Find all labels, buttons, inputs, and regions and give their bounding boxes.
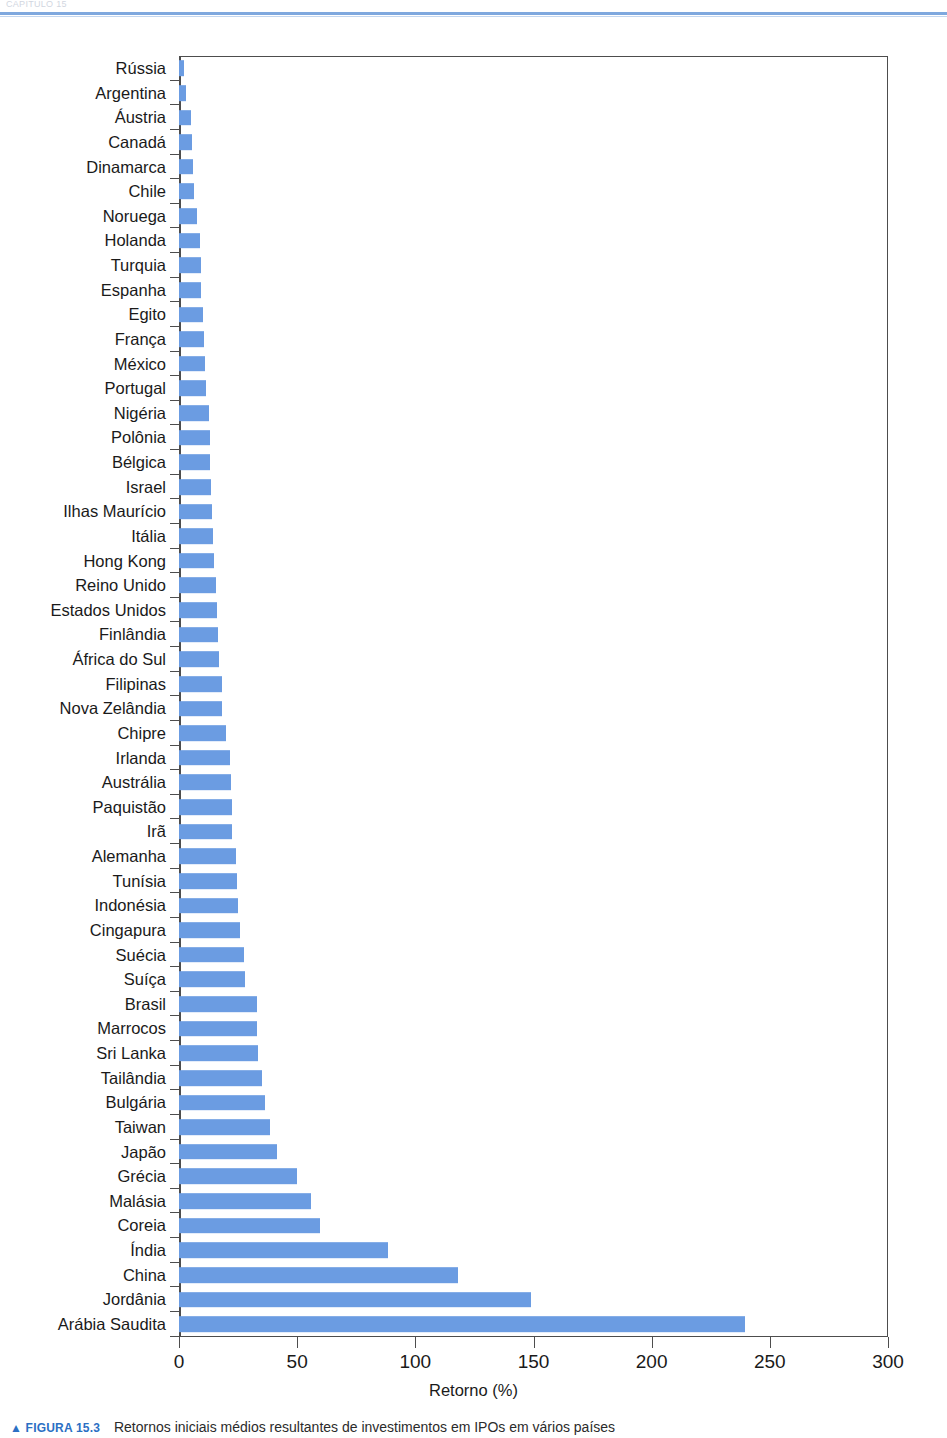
bar-row: África do Sul (0, 647, 947, 672)
bar (179, 972, 245, 988)
bar-track (179, 228, 947, 253)
x-axis-tick (534, 1337, 535, 1348)
bar (179, 405, 209, 421)
category-label: Holanda (0, 232, 170, 249)
bar-row: Coreia (0, 1213, 947, 1238)
category-label: Nigéria (0, 405, 170, 422)
x-axis-tick-label: 150 (518, 1351, 550, 1373)
category-label: Reino Unido (0, 577, 170, 594)
bar-row: Irã (0, 819, 947, 844)
bar (179, 504, 212, 520)
bar-track (179, 425, 947, 450)
x-axis-tick-label: 100 (399, 1351, 431, 1373)
category-label: Malásia (0, 1193, 170, 1210)
category-label: Turquia (0, 257, 170, 274)
bar-row: Dinamarca (0, 155, 947, 180)
bar-row: Estados Unidos (0, 598, 947, 623)
bar-row: Tailândia (0, 1066, 947, 1091)
bar (179, 258, 201, 274)
category-label: Áustria (0, 109, 170, 126)
top-rule-thin (0, 16, 947, 17)
bar-row: Argentina (0, 81, 947, 106)
bar-row: Rússia (0, 56, 947, 81)
x-axis-tick-label: 50 (287, 1351, 308, 1373)
bar (179, 750, 230, 766)
bar (179, 1267, 458, 1283)
x-axis-tick (652, 1337, 653, 1348)
bar-track (179, 56, 947, 81)
bar (179, 775, 231, 791)
bar-track (179, 1115, 947, 1140)
bar-track (179, 1066, 947, 1091)
x-axis-tick-label: 200 (636, 1351, 668, 1373)
category-label: Arábia Saudita (0, 1316, 170, 1333)
category-label: Sri Lanka (0, 1045, 170, 1062)
bar-row: México (0, 352, 947, 377)
category-label: Nova Zelândia (0, 700, 170, 717)
bar-track (179, 179, 947, 204)
bar-track (179, 795, 947, 820)
bar (179, 455, 210, 471)
bar-track (179, 696, 947, 721)
category-label: Argentina (0, 85, 170, 102)
bar (179, 701, 222, 717)
bar-track (179, 302, 947, 327)
bar-row: Chipre (0, 721, 947, 746)
bar-track (179, 352, 947, 377)
caption-marker: ▲ FIGURA 15.3 (10, 1421, 100, 1435)
bar (179, 208, 197, 224)
category-label: Índia (0, 1242, 170, 1259)
category-label: Dinamarca (0, 159, 170, 176)
bar (179, 725, 226, 741)
bar (179, 61, 184, 77)
bar-track (179, 401, 947, 426)
bar-track (179, 573, 947, 598)
bar (179, 578, 216, 594)
x-axis-title: Retorno (%) (0, 1381, 947, 1400)
bar (179, 602, 217, 618)
bar-row: Nigéria (0, 401, 947, 426)
bar-row: França (0, 327, 947, 352)
bar-track (179, 819, 947, 844)
bar (179, 110, 191, 126)
bar (179, 1095, 265, 1111)
bar (179, 898, 238, 914)
bar-track (179, 770, 947, 795)
bar-track (179, 598, 947, 623)
bar-row: Chile (0, 179, 947, 204)
bar-track (179, 1287, 947, 1312)
bar-track (179, 155, 947, 180)
bar (179, 134, 192, 150)
x-axis-tick-label: 250 (754, 1351, 786, 1373)
x-axis: Retorno (%) 050100150200250300 (0, 1337, 947, 1407)
bar-row: Cingapura (0, 918, 947, 943)
category-label: Canadá (0, 134, 170, 151)
category-label: Taiwan (0, 1119, 170, 1136)
bar-track (179, 1312, 947, 1337)
bar (179, 307, 203, 323)
category-label: África do Sul (0, 651, 170, 668)
bar-track (179, 918, 947, 943)
bar-row: Filipinas (0, 672, 947, 697)
bar-track (179, 622, 947, 647)
category-label: Indonésia (0, 897, 170, 914)
bar-row: Indonésia (0, 893, 947, 918)
bar-row: Marrocos (0, 1016, 947, 1041)
category-label: Portugal (0, 380, 170, 397)
category-label: Egito (0, 306, 170, 323)
bar (179, 553, 214, 569)
bar-row: Finlândia (0, 622, 947, 647)
category-label: México (0, 356, 170, 373)
bar (179, 528, 213, 544)
bar-track (179, 1263, 947, 1288)
bar-track (179, 746, 947, 771)
bar-row: Espanha (0, 278, 947, 303)
category-label: Tailândia (0, 1070, 170, 1087)
bar-track (179, 869, 947, 894)
bar (179, 1316, 745, 1332)
bar-track (179, 204, 947, 229)
x-axis-tick-label: 0 (174, 1351, 185, 1373)
bar-track (179, 1213, 947, 1238)
bar-track (179, 1189, 947, 1214)
category-label: Jordânia (0, 1291, 170, 1308)
